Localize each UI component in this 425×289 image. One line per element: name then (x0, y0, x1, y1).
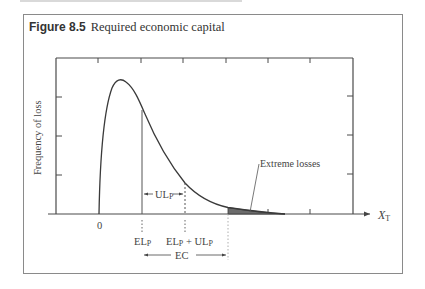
plot-box (56, 58, 353, 214)
right-ticks (347, 96, 353, 174)
y-axis-label: Frequency of loss (32, 100, 43, 175)
loss-distribution-curve (99, 80, 285, 214)
x-axis-label: XT (377, 208, 390, 223)
loss-distribution-chart: ULP EC 0 ELP ELP + ULP Extreme losses XT… (0, 0, 425, 289)
ec-label: EC (175, 250, 188, 261)
zero-label: 0 (97, 220, 102, 231)
left-ticks (56, 97, 62, 175)
top-ticks (98, 58, 310, 63)
extreme-losses-label: Extreme losses (260, 158, 320, 169)
el-ul-label: ELP + ULP (166, 236, 213, 248)
ul-label: ULP (155, 189, 174, 201)
extreme-losses-leader (250, 164, 259, 212)
el-label: ELP (134, 236, 152, 248)
